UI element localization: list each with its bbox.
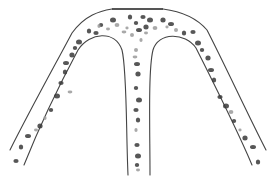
blob [54, 94, 60, 99]
blob [87, 29, 91, 34]
inner-right-boundary [150, 36, 252, 175]
blob [223, 104, 229, 109]
blob [190, 30, 195, 34]
blob [63, 61, 69, 65]
blob [250, 145, 256, 149]
blob [106, 28, 110, 31]
blob [58, 81, 63, 85]
blob [165, 26, 168, 29]
blob [69, 53, 74, 58]
blob [136, 28, 142, 32]
dark-blobs [13, 15, 260, 168]
blob [49, 108, 53, 112]
blob [135, 72, 140, 77]
blob [134, 62, 140, 66]
blob [97, 24, 100, 28]
blob [93, 31, 98, 35]
blob [133, 56, 138, 59]
blob [208, 68, 214, 72]
blob [34, 129, 38, 132]
blob [144, 32, 148, 35]
blob [182, 31, 186, 36]
blob [13, 159, 18, 163]
blob [134, 128, 137, 132]
trident-channel-sketch [0, 0, 275, 187]
blob [217, 95, 222, 99]
blob [19, 145, 23, 150]
blob [134, 48, 138, 52]
blob [115, 23, 120, 27]
blob [134, 86, 138, 90]
blob [63, 70, 67, 75]
blob [110, 18, 116, 23]
blob [73, 46, 77, 50]
sketch-canvas [0, 0, 275, 187]
blob [200, 48, 204, 52]
blob [238, 129, 241, 132]
blob [139, 38, 142, 42]
blob [68, 91, 73, 94]
blob [136, 169, 140, 172]
blob [232, 119, 236, 123]
blob [133, 108, 138, 112]
blob [135, 163, 139, 167]
blob [122, 31, 127, 34]
blob [128, 15, 132, 20]
blob [229, 110, 234, 114]
blob [195, 41, 201, 46]
blob [76, 40, 82, 45]
blob [140, 15, 145, 19]
blob [136, 118, 140, 123]
blob [147, 18, 153, 23]
blob [125, 27, 128, 30]
blob [174, 28, 178, 32]
blob [153, 26, 158, 30]
blob [130, 33, 134, 37]
blob [143, 25, 148, 30]
blob [212, 78, 216, 83]
blob [242, 136, 247, 141]
blob [256, 160, 260, 165]
blob [168, 22, 174, 26]
blob [205, 56, 210, 61]
inner-left-boundary [24, 36, 128, 175]
blob [25, 134, 31, 138]
blob [43, 116, 46, 120]
blob [136, 98, 142, 103]
blob [160, 18, 165, 23]
blob [37, 124, 42, 129]
blob [135, 154, 141, 159]
blob [134, 143, 139, 147]
blob [134, 21, 138, 25]
